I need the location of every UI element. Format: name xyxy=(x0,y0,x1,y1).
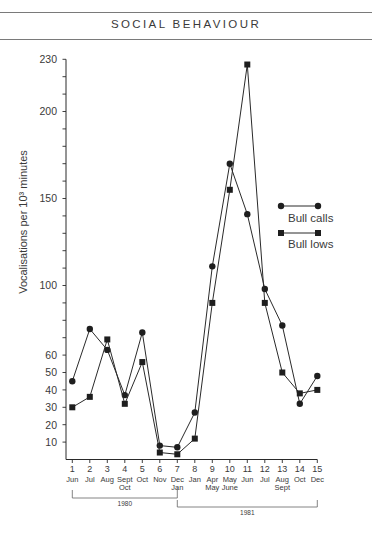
data-point-bull-lows xyxy=(227,187,233,193)
x-tick-label-number: 5 xyxy=(140,464,145,474)
y-tick-label: 230 xyxy=(39,53,57,65)
legend-marker-square-icon xyxy=(278,230,284,236)
data-point-bull-lows xyxy=(174,451,180,457)
x-tick-label-month: Aug xyxy=(101,475,114,484)
x-tick-label-month: Oct xyxy=(294,475,307,484)
y-tick-label: 20 xyxy=(45,419,57,431)
y-axis-ticks: 102030405060100150200230 xyxy=(39,53,66,448)
data-point-bull-lows xyxy=(87,394,93,400)
x-tick-label-number: 15 xyxy=(312,464,322,474)
x-tick-label-number: 3 xyxy=(105,464,110,474)
legend: Bull calls Bull lows xyxy=(278,203,334,250)
x-tick-label-number: 6 xyxy=(157,464,162,474)
data-point-bull-lows xyxy=(297,390,303,396)
data-point-bull-calls xyxy=(87,326,93,332)
legend-label-bull-lows: Bull lows xyxy=(288,238,334,250)
data-point-bull-lows xyxy=(209,300,215,306)
data-point-bull-calls xyxy=(139,329,145,335)
data-point-bull-calls xyxy=(244,211,250,217)
legend-item-bull-lows: Bull lows xyxy=(278,230,334,250)
data-point-bull-lows xyxy=(192,436,198,442)
data-point-bull-calls xyxy=(279,322,285,328)
year-label: 1980 xyxy=(118,500,133,507)
data-point-bull-lows xyxy=(122,401,128,407)
y-tick-label: 30 xyxy=(45,401,57,413)
x-tick-label-month: May xyxy=(205,483,219,492)
x-tick-label-number: 12 xyxy=(260,464,270,474)
series-bull-lows xyxy=(69,62,320,458)
axes xyxy=(66,59,317,459)
series-line-bull-lows xyxy=(72,65,317,455)
x-tick-label-number: 11 xyxy=(243,464,252,474)
data-point-bull-calls xyxy=(192,409,198,415)
legend-item-bull-calls: Bull calls xyxy=(278,203,334,224)
legend-marker-square-icon xyxy=(315,230,321,236)
data-point-bull-lows xyxy=(157,450,163,456)
x-tick-label-month: Dec xyxy=(311,475,325,484)
y-tick-label: 50 xyxy=(45,366,57,378)
x-tick-label-month: Oct xyxy=(136,475,149,484)
data-point-bull-calls xyxy=(69,378,75,384)
x-tick-label-number: 10 xyxy=(225,464,235,474)
x-tick-label-number: 9 xyxy=(210,464,215,474)
x-tick-label-month: Jun xyxy=(241,475,253,484)
data-point-bull-lows xyxy=(139,359,145,365)
data-point-bull-lows xyxy=(262,300,268,306)
data-point-bull-calls xyxy=(262,286,268,292)
x-axis-ticks: 1Jun2Jul3Aug4SeptOct5Oct6Nov7DecJan8Jan9… xyxy=(66,460,324,493)
data-point-bull-calls xyxy=(297,401,303,407)
y-tick-label: 200 xyxy=(39,105,57,117)
x-tick-label-number: 13 xyxy=(277,464,287,474)
legend-label-bull-calls: Bull calls xyxy=(288,212,334,224)
y-axis-label: Vocalisations per 10³ minutes xyxy=(17,150,29,294)
data-point-bull-calls xyxy=(209,263,215,269)
y-tick-label: 100 xyxy=(39,279,57,291)
legend-marker-circle-icon xyxy=(315,203,321,209)
data-point-bull-lows xyxy=(279,370,285,376)
x-tick-label-month: June xyxy=(222,483,238,492)
y-tick-label: 150 xyxy=(39,192,57,204)
year-label: 1981 xyxy=(240,509,255,516)
x-tick-label-number: 2 xyxy=(87,464,92,474)
data-point-bull-lows xyxy=(244,62,250,68)
x-tick-label-number: 4 xyxy=(122,464,127,474)
x-tick-label-month: Oct xyxy=(119,483,132,492)
y-tick-label: 10 xyxy=(45,436,57,448)
y-tick-label: 40 xyxy=(45,384,57,396)
year-brackets: 19801981 xyxy=(72,488,317,516)
y-tick-label: 60 xyxy=(45,349,57,361)
data-series xyxy=(69,62,320,458)
x-tick-label-month: Nov xyxy=(153,475,167,484)
x-tick-label-month: Sept xyxy=(275,483,291,492)
vocalisation-line-chart: 102030405060100150200230 1Jun2Jul3Aug4Se… xyxy=(0,0,372,537)
legend-marker-circle-icon xyxy=(278,203,284,209)
x-tick-label-month: Jun xyxy=(66,475,78,484)
x-tick-label-number: 1 xyxy=(70,464,75,474)
data-point-bull-calls xyxy=(174,444,180,450)
x-tick-label-number: 14 xyxy=(295,464,305,474)
data-point-bull-lows xyxy=(69,404,75,410)
x-tick-label-month: Jul xyxy=(85,475,95,484)
data-point-bull-lows xyxy=(104,336,110,342)
x-tick-label-number: 8 xyxy=(192,464,197,474)
year-bracket-1981: 1981 xyxy=(177,500,317,516)
data-point-bull-lows xyxy=(314,387,320,393)
data-point-bull-calls xyxy=(227,161,233,167)
x-tick-label-number: 7 xyxy=(175,464,180,474)
x-tick-label-month: Jul xyxy=(260,475,270,484)
data-point-bull-calls xyxy=(314,373,320,379)
x-tick-label-month: Jan xyxy=(189,475,201,484)
